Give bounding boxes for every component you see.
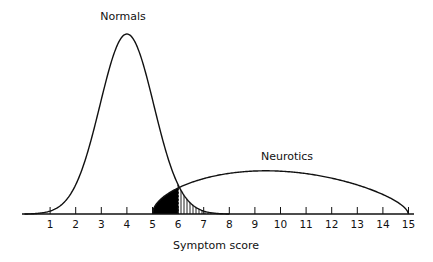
x-tick-label: 1 bbox=[47, 218, 54, 230]
x-tick-label: 3 bbox=[98, 218, 105, 230]
x-axis: 123456789101112131415 bbox=[22, 207, 415, 230]
x-tick-label: 13 bbox=[351, 218, 364, 230]
shaded-region-neurotics-below-cutoff bbox=[153, 188, 179, 214]
labels: Normals Neurotics Symptom score bbox=[100, 10, 313, 252]
x-tick-label: 11 bbox=[299, 218, 312, 230]
normals-curve bbox=[25, 34, 230, 214]
x-tick-label: 10 bbox=[274, 218, 287, 230]
normals-label: Normals bbox=[100, 10, 146, 23]
x-tick-label: 7 bbox=[200, 218, 207, 230]
neurotics-label: Neurotics bbox=[261, 150, 313, 163]
x-tick-label: 5 bbox=[149, 218, 156, 230]
x-tick-label: 15 bbox=[402, 218, 415, 230]
chart: 123456789101112131415 Normals Neurotics … bbox=[0, 0, 433, 262]
x-tick-label: 14 bbox=[376, 218, 390, 230]
x-tick-label: 4 bbox=[124, 218, 131, 230]
x-tick-label: 9 bbox=[252, 218, 259, 230]
shaded-regions bbox=[153, 185, 230, 214]
x-tick-label: 8 bbox=[226, 218, 233, 230]
x-tick-label: 6 bbox=[175, 218, 182, 230]
x-tick-label: 2 bbox=[72, 218, 79, 230]
curves bbox=[25, 34, 409, 214]
x-tick-label: 12 bbox=[325, 218, 338, 230]
x-axis-label: Symptom score bbox=[173, 239, 259, 252]
